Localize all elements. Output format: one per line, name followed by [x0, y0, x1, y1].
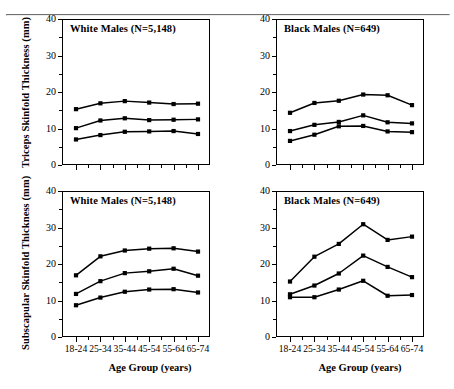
- y-tick-major: [58, 165, 63, 166]
- y-tick-minor: [273, 246, 276, 247]
- x-tick-major: [412, 165, 413, 170]
- data-point-marker: [312, 283, 316, 287]
- x-tick-major: [388, 165, 389, 170]
- data-point-marker: [196, 274, 200, 278]
- x-tick-major: [76, 337, 77, 342]
- series-line: [290, 126, 412, 141]
- series-line: [290, 281, 412, 297]
- y-tick-label: 10: [46, 124, 56, 134]
- y-tick-label: 40: [46, 14, 56, 24]
- data-point-marker: [98, 279, 102, 283]
- y-tick-major: [58, 92, 63, 93]
- data-point-marker: [410, 275, 414, 279]
- x-tick-minor: [161, 165, 162, 168]
- x-tick-minor: [351, 165, 352, 168]
- y-tick-major: [272, 92, 277, 93]
- chart-panel-triceps-black-males: Black Males (N=649) 010203040: [276, 19, 424, 165]
- y-tick-major: [58, 19, 63, 20]
- data-point-marker: [172, 246, 176, 250]
- x-tick-label: 18-24: [279, 344, 301, 354]
- x-tick-label: 65-74: [187, 344, 209, 354]
- x-tick-major: [125, 337, 126, 342]
- data-point-marker: [386, 265, 390, 269]
- y-tick-major: [272, 228, 277, 229]
- data-point-marker: [312, 295, 316, 299]
- data-point-marker: [361, 254, 365, 258]
- x-tick-major: [174, 165, 175, 170]
- x-tick-minor: [375, 337, 376, 340]
- y-tick-minor: [59, 147, 62, 148]
- y-tick-minor: [59, 246, 62, 247]
- x-tick-major: [314, 165, 315, 170]
- x-tick-label: 35-44: [328, 344, 350, 354]
- data-point-marker: [361, 124, 365, 128]
- x-tick-minor: [88, 165, 89, 168]
- x-tick-label: 45-54: [138, 344, 160, 354]
- y-tick-label: 20: [260, 259, 270, 269]
- y-tick-minor: [273, 147, 276, 148]
- y-tick-major: [272, 19, 277, 20]
- x-tick-minor: [375, 165, 376, 168]
- data-point-marker: [98, 254, 102, 258]
- data-point-marker: [123, 271, 127, 275]
- data-point-marker: [288, 111, 292, 115]
- y-tick-minor: [59, 319, 62, 320]
- y-tick-label: 30: [46, 223, 56, 233]
- data-point-marker: [288, 295, 292, 299]
- x-tick-minor: [327, 165, 328, 168]
- top-divider-rule: [6, 14, 450, 16]
- x-tick-minor: [186, 337, 187, 340]
- series-plot-area: [62, 191, 210, 337]
- chart-panel-subscapular-white-males: White Males (N=5,148) 01020304018-2425-3…: [62, 191, 210, 337]
- y-tick-label: 40: [260, 186, 270, 196]
- series-line: [76, 289, 198, 305]
- series-line: [290, 115, 412, 131]
- data-point-marker: [337, 242, 341, 246]
- data-point-marker: [337, 271, 341, 275]
- data-point-marker: [288, 139, 292, 143]
- x-tick-minor: [400, 165, 401, 168]
- data-point-marker: [337, 120, 341, 124]
- y-tick-major: [272, 337, 277, 338]
- x-tick-label: 65-74: [401, 344, 423, 354]
- x-tick-minor: [302, 337, 303, 340]
- data-point-marker: [386, 294, 390, 298]
- data-point-marker: [386, 120, 390, 124]
- x-tick-minor: [302, 165, 303, 168]
- y-tick-major: [272, 165, 277, 166]
- x-tick-label: 35-44: [114, 344, 136, 354]
- data-point-marker: [98, 101, 102, 105]
- y-tick-major: [58, 191, 63, 192]
- x-tick-minor: [400, 337, 401, 340]
- data-point-marker: [123, 116, 127, 120]
- data-point-marker: [196, 102, 200, 106]
- y-tick-minor: [59, 37, 62, 38]
- x-tick-label: 18-24: [65, 344, 87, 354]
- data-point-marker: [337, 287, 341, 291]
- x-tick-label: 55-64: [376, 344, 398, 354]
- y-tick-minor: [59, 209, 62, 210]
- data-point-marker: [386, 129, 390, 133]
- data-point-marker: [410, 130, 414, 134]
- data-point-marker: [410, 103, 414, 107]
- data-point-marker: [123, 248, 127, 252]
- data-point-marker: [337, 124, 341, 128]
- y-tick-major: [272, 191, 277, 192]
- series-line: [290, 224, 412, 281]
- y-tick-minor: [273, 282, 276, 283]
- series-line: [76, 248, 198, 275]
- x-tick-major: [100, 337, 101, 342]
- y-tick-label: 10: [260, 124, 270, 134]
- y-tick-major: [58, 301, 63, 302]
- data-point-marker: [312, 123, 316, 127]
- x-tick-major: [290, 165, 291, 170]
- data-point-marker: [312, 133, 316, 137]
- y-tick-minor: [59, 282, 62, 283]
- x-tick-major: [149, 165, 150, 170]
- x-tick-major: [314, 337, 315, 342]
- chart-panel-subscapular-black-males: Black Males (N=649) 01020304018-2425-343…: [276, 191, 424, 337]
- data-point-marker: [386, 93, 390, 97]
- x-tick-major: [125, 165, 126, 170]
- series-line: [76, 131, 198, 139]
- y-tick-label: 0: [265, 332, 270, 342]
